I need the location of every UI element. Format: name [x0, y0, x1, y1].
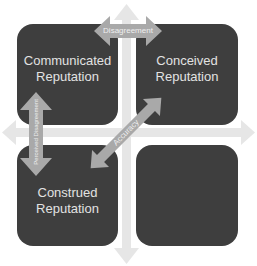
disagreement-label: Disagreement: [98, 26, 158, 35]
perceived-disagreement-label: Perceived Disagreement: [33, 87, 39, 177]
